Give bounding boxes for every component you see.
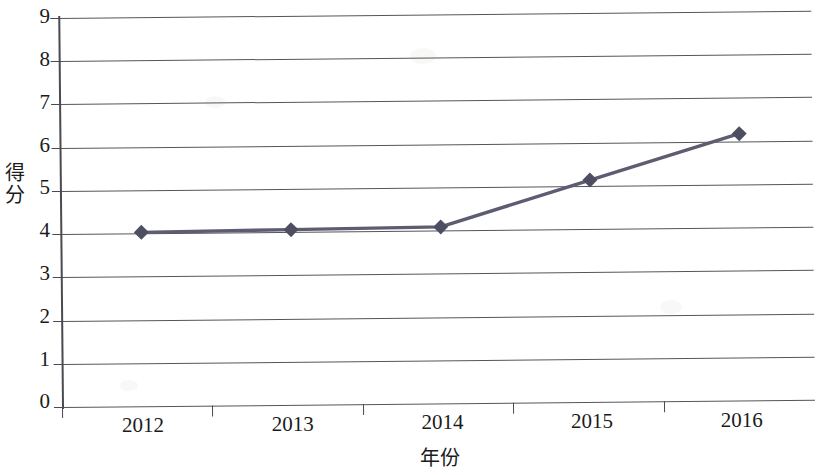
x-axis-label: 2012: [88, 415, 198, 436]
y-axis-label: 8: [24, 49, 50, 70]
x-axis-label: 2015: [537, 411, 647, 432]
y-axis-label: 9: [24, 6, 50, 27]
data-point-marker: [134, 225, 149, 240]
x-axis-label: 2014: [387, 412, 497, 433]
y-axis-label: 7: [24, 92, 50, 113]
y-axis-label: 1: [24, 349, 50, 370]
y-axis-title-char-2: 分: [2, 185, 28, 207]
y-axis-label: 2: [24, 306, 50, 327]
y-axis-label: 4: [24, 220, 50, 241]
data-series: [0, 0, 819, 475]
series-line: [140, 134, 740, 233]
y-axis-labels: 0123456789: [0, 0, 50, 475]
x-axis-label: 2013: [238, 414, 348, 435]
data-point-marker: [433, 219, 448, 234]
y-axis-label: 6: [24, 135, 50, 156]
data-point-marker: [732, 126, 747, 141]
x-axis-title: 年份: [400, 448, 480, 468]
y-axis-label: 0: [24, 391, 50, 412]
y-axis-title: 得 分: [2, 163, 28, 206]
data-point-marker: [582, 172, 597, 187]
data-point-marker: [283, 222, 298, 237]
x-axis-label: 2016: [687, 410, 797, 431]
plot-area: [0, 0, 819, 475]
chart-canvas: 0123456789 20122013201420152016 得 分 年份: [0, 0, 819, 475]
y-axis-title-char-1: 得: [2, 163, 28, 185]
series-markers: [133, 126, 748, 240]
y-axis-label: 3: [24, 263, 50, 284]
